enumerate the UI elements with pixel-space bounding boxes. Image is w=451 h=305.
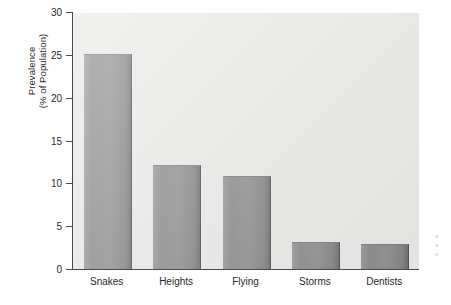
- bar-dentists: [361, 244, 409, 269]
- cropped-margin-note: a a s: [435, 232, 451, 280]
- y-tick-label: 10: [51, 178, 62, 189]
- y-tick-label: 25: [51, 49, 62, 60]
- y-axis-tick: [66, 12, 73, 13]
- x-axis-label-snakes: Snakes: [90, 276, 123, 287]
- bar-flying: [223, 176, 271, 269]
- y-axis-tick: [66, 55, 73, 56]
- bar-storms: [292, 242, 340, 269]
- y-tick-label: 0: [56, 264, 62, 275]
- y-axis-tick: [66, 98, 73, 99]
- y-axis-tick: [66, 226, 73, 227]
- y-axis-title-line1: Prevalence: [26, 0, 37, 146]
- bar-chart-figure: Prevalence (% of Population) 05101520253…: [0, 0, 451, 305]
- bar-heights: [153, 165, 201, 269]
- y-axis-tick: [66, 141, 73, 142]
- y-axis-title: Prevalence (% of Population): [26, 0, 48, 146]
- y-tick-label: 20: [51, 92, 62, 103]
- margin-note-line3: s: [435, 250, 451, 259]
- x-axis-label-flying: Flying: [232, 276, 259, 287]
- y-axis-title-line2: (% of Population): [37, 0, 48, 146]
- x-axis-label-heights: Heights: [159, 276, 193, 287]
- bar-snakes: [84, 54, 132, 269]
- x-axis-label-storms: Storms: [299, 276, 331, 287]
- y-axis-tick: [66, 183, 73, 184]
- plot-area: 051015202530: [72, 13, 419, 270]
- y-axis-tick: [66, 269, 73, 270]
- y-tick-label: 15: [51, 135, 62, 146]
- margin-note-line2: a: [435, 241, 451, 250]
- margin-note-line1: a: [435, 232, 451, 241]
- y-tick-label: 30: [51, 7, 62, 18]
- y-tick-label: 5: [56, 221, 62, 232]
- x-axis-label-dentists: Dentists: [366, 276, 402, 287]
